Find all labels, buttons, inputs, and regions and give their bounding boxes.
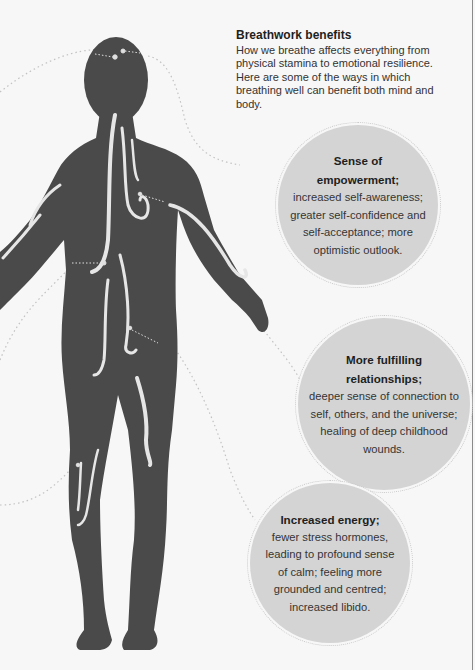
benefit-bubble-empowerment: Sense of empowerment; increased self-awa… [278,125,438,285]
benefit-description: deeper sense of connection to self, othe… [309,388,459,458]
benefit-title: Increased energy; [280,510,379,529]
benefit-title: empowerment; [317,170,399,189]
benefit-bubble-energy: Increased energy; fewer stress hormones,… [250,483,410,643]
benefit-description: fewer stress hormones, leading to profou… [260,529,400,617]
benefit-bubble-relationships: More fulfilling relationships; deeper se… [298,318,470,490]
benefit-title: More fulfilling [346,350,422,369]
benefit-description: increased self-awareness; greater self-c… [284,189,432,259]
benefit-title: Sense of [334,151,382,170]
page-edge-divider [472,0,473,670]
intro-title: Breathwork benefits [236,29,451,43]
human-body-icon [0,37,268,650]
intro-block: Breathwork benefits How we breathe affec… [236,29,451,112]
intro-text: How we breathe affects everything from p… [236,44,451,112]
benefit-title: relationships; [346,369,422,388]
